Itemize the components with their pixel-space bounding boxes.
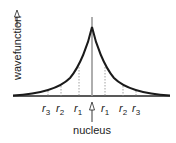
- nucleus-arrow-icon: [90, 102, 95, 122]
- label-r2-right: r2: [119, 102, 128, 117]
- wavefunction-diagram: wavefunction r3 r2 r1 r1 r2 r3 nucleus: [0, 0, 176, 143]
- label-r1-left: r1: [74, 102, 83, 117]
- label-r3-left: r3: [42, 102, 51, 117]
- nucleus-label: nucleus: [73, 124, 111, 136]
- label-r2-left: r2: [56, 102, 65, 117]
- label-r3-right: r3: [132, 102, 141, 117]
- label-r1-right: r1: [101, 102, 110, 117]
